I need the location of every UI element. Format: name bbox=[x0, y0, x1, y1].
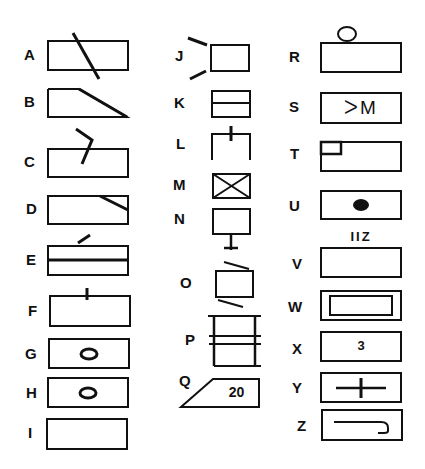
label-k: K bbox=[174, 95, 185, 111]
label-m: M bbox=[173, 177, 186, 193]
label-q: Q bbox=[179, 373, 191, 389]
label-x: X bbox=[292, 341, 302, 357]
symbol-l bbox=[212, 126, 250, 160]
label-h: H bbox=[26, 385, 37, 401]
label-c: C bbox=[24, 154, 35, 170]
symbol-u bbox=[321, 191, 401, 219]
symbol-m bbox=[213, 174, 250, 198]
symbol-g bbox=[49, 339, 129, 368]
symbol-e bbox=[48, 235, 128, 275]
label-v: V bbox=[292, 256, 302, 272]
label-p: P bbox=[185, 332, 195, 348]
label-y: Y bbox=[292, 380, 302, 396]
symbol-n bbox=[213, 209, 250, 250]
symbol-i bbox=[47, 419, 127, 449]
symbol-v bbox=[321, 248, 401, 277]
symbol-a bbox=[48, 33, 128, 79]
label-r: R bbox=[289, 49, 300, 65]
symbol-o bbox=[216, 262, 253, 307]
label-j: J bbox=[175, 48, 183, 64]
symbol-h bbox=[48, 378, 128, 407]
label-e: E bbox=[26, 252, 36, 268]
label-f: F bbox=[28, 303, 37, 319]
symbol-k bbox=[212, 91, 250, 117]
label-l: L bbox=[176, 136, 185, 152]
symbol-j bbox=[188, 38, 249, 79]
label-w: W bbox=[288, 299, 302, 315]
label-o: O bbox=[180, 275, 192, 291]
label-u: U bbox=[289, 198, 300, 214]
label-a: A bbox=[24, 47, 35, 63]
symbol-t bbox=[321, 142, 401, 171]
symbol-r bbox=[321, 27, 401, 72]
symbol-f bbox=[50, 288, 130, 326]
label-z: Z bbox=[297, 418, 306, 434]
symbol-q-text: 20 bbox=[214, 384, 259, 400]
symbol-p bbox=[208, 316, 261, 366]
label-g: G bbox=[25, 346, 37, 362]
symbol-y bbox=[321, 373, 401, 402]
symbol-v-text-above: IIZ bbox=[321, 229, 401, 244]
symbol-c bbox=[48, 129, 128, 177]
label-b: B bbox=[24, 94, 35, 110]
label-s: S bbox=[289, 99, 299, 115]
label-d: D bbox=[26, 201, 37, 217]
label-n: N bbox=[174, 211, 185, 227]
symbol-x-text: 3 bbox=[321, 338, 401, 353]
symbol-d bbox=[48, 196, 128, 224]
label-t: T bbox=[290, 146, 299, 162]
symbol-b bbox=[48, 89, 127, 117]
symbol-z bbox=[322, 410, 402, 440]
symbol-s-text: ᐳM bbox=[321, 96, 401, 119]
symbol-w bbox=[321, 291, 401, 320]
label-i: I bbox=[28, 425, 32, 441]
